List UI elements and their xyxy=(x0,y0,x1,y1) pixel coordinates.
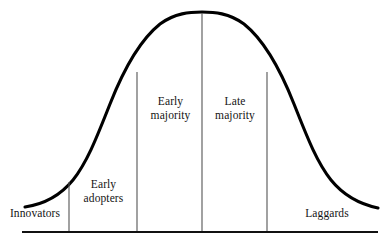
segment-label-early-adopters: Early adopters xyxy=(71,178,136,205)
segment-label-laggards: Laggards xyxy=(287,207,367,221)
segment-label-early-majority: Early majority xyxy=(139,95,202,122)
segment-label-late-majority: Late majority xyxy=(204,95,266,122)
segment-label-innovators: Innovators xyxy=(2,207,68,221)
adoption-curve-diagram: Innovators Early adopters Early majority… xyxy=(0,0,390,245)
